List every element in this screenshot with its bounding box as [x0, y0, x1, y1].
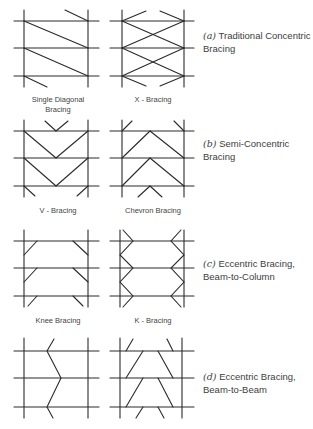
- frame-k-bracing: [110, 230, 194, 307]
- caption-b: (b) Semi-Concentric Bracing: [203, 137, 289, 163]
- label-knee-bracing: Knee Bracing: [18, 316, 98, 326]
- caption-letter: (d): [203, 371, 217, 382]
- caption-a: (a) Traditional Concentric Bracing: [203, 29, 311, 55]
- caption-line: (d) Eccentric Bracing,: [203, 370, 296, 383]
- frame-chevron-bracing: [110, 120, 194, 197]
- caption-line: Bracing: [203, 42, 311, 55]
- caption-line: Beam-to-Beam: [203, 383, 296, 396]
- caption-text: Semi-Concentric: [219, 138, 289, 149]
- label-single-diagonal: Single Diagonal Bracing: [18, 95, 98, 115]
- caption-text: Eccentric Bracing,: [219, 371, 296, 382]
- frame-eccentric-split: [110, 338, 194, 418]
- frame-knee-bracing: [14, 230, 99, 307]
- label-x-bracing: X - Bracing: [113, 95, 193, 105]
- caption-line: (b) Semi-Concentric: [203, 137, 289, 150]
- caption-line: (a) Traditional Concentric: [203, 29, 311, 42]
- label-k-bracing: K - Bracing: [113, 316, 193, 326]
- caption-line: Bracing: [203, 150, 289, 163]
- caption-line: (c) Eccentric Bracing,: [203, 257, 295, 270]
- frame-single-diagonal: [14, 10, 99, 87]
- frame-eccentric-single: [14, 338, 99, 418]
- caption-text: Traditional Concentric: [219, 30, 311, 41]
- label-line: Knee Bracing: [18, 316, 98, 326]
- label-line: X - Bracing: [113, 95, 193, 105]
- label-line: Single Diagonal: [18, 95, 98, 105]
- label-line: V - Bracing: [18, 206, 98, 216]
- caption-letter: (c): [203, 258, 216, 269]
- label-line: Chevron Bracing: [113, 206, 193, 216]
- caption-letter: (b): [203, 138, 217, 149]
- label-line: K - Bracing: [113, 316, 193, 326]
- caption-line: Beam-to-Column: [203, 270, 295, 283]
- caption-letter: (a): [203, 30, 216, 41]
- frame-v-bracing: [14, 120, 99, 197]
- label-line: Bracing: [18, 105, 98, 115]
- label-v-bracing: V - Bracing: [18, 206, 98, 216]
- label-chevron-bracing: Chevron Bracing: [113, 206, 193, 216]
- frame-x-bracing: [110, 10, 194, 87]
- caption-c: (c) Eccentric Bracing, Beam-to-Column: [203, 257, 295, 283]
- caption-d: (d) Eccentric Bracing, Beam-to-Beam: [203, 370, 296, 396]
- caption-text: Eccentric Bracing,: [218, 258, 295, 269]
